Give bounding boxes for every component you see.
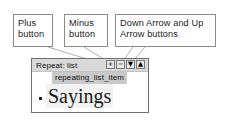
repeat-list-label: Repeat: list <box>36 61 77 70</box>
callout-arrows-line1: Down Arrow and Up <box>120 18 212 29</box>
chevron-up-icon[interactable]: ▲ <box>136 60 145 69</box>
repeat-list-panel: Repeat: list + − ▼ ▲ repeating_list_item… <box>31 58 149 113</box>
callout-plus-line2: button <box>18 29 49 40</box>
list-content-row: Sayings <box>32 83 148 112</box>
callout-arrows-line2: Arrow buttons <box>120 29 212 40</box>
bullet-icon <box>39 97 42 100</box>
list-item-text[interactable]: Sayings <box>46 84 113 108</box>
callout-plus-button: Plus button <box>13 14 53 47</box>
callout-minus-line2: button <box>69 29 104 40</box>
callout-plus-line1: Plus <box>18 18 49 29</box>
diagram-canvas: Plus button Minus button Down Arrow and … <box>0 0 226 123</box>
minus-icon[interactable]: − <box>116 60 125 69</box>
repeat-toolbar: Repeat: list + − ▼ ▲ <box>32 59 148 72</box>
callout-minus-line1: Minus <box>69 18 104 29</box>
chevron-down-icon[interactable]: ▼ <box>126 60 135 69</box>
callout-arrow-buttons: Down Arrow and Up Arrow buttons <box>115 14 216 47</box>
callout-minus-button: Minus button <box>64 14 108 47</box>
plus-icon[interactable]: + <box>106 60 115 69</box>
spinner-button-group: + − ▼ ▲ <box>106 60 145 69</box>
token-row: repeating_list_item <box>32 72 148 83</box>
